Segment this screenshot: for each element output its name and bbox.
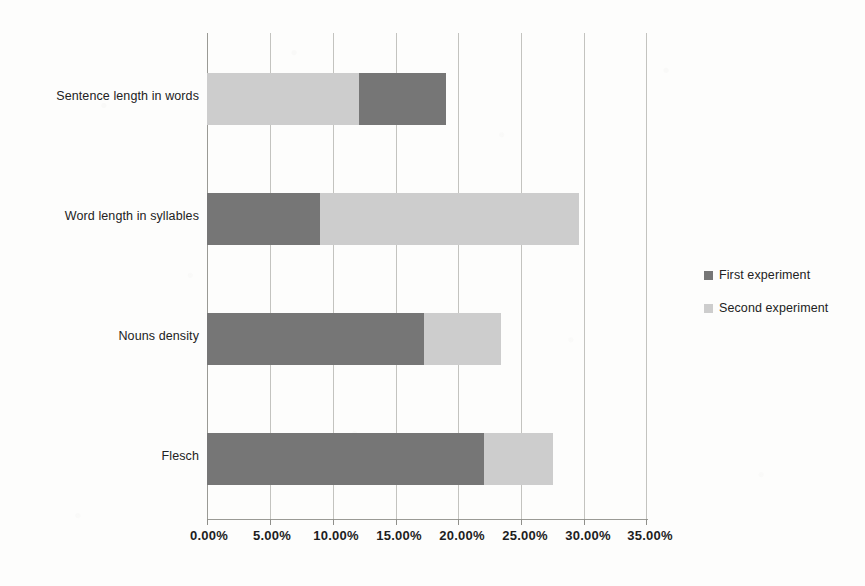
bar-row xyxy=(207,313,501,365)
y-axis-category-labels: Sentence length in words Word length in … xyxy=(0,0,199,586)
bar-segment-second-experiment xyxy=(484,433,553,485)
plot-area xyxy=(207,33,647,520)
bar-row xyxy=(207,193,579,245)
bar-segment-first-experiment xyxy=(207,193,320,245)
x-axis-line xyxy=(207,519,648,520)
x-tick-label-0: 0.00% xyxy=(190,528,228,543)
bar-segment-second-experiment xyxy=(424,313,501,365)
x-tick-20 xyxy=(458,519,459,525)
gridline-35 xyxy=(646,33,647,520)
legend-entry-first-experiment: First experiment xyxy=(704,268,854,282)
legend-label-second-experiment: Second experiment xyxy=(719,301,828,315)
x-tick-5 xyxy=(270,519,271,525)
x-tick-label-35: 35.00% xyxy=(627,528,672,543)
x-tick-label-20: 20.00% xyxy=(439,528,484,543)
category-label-sentence-length-in-words: Sentence length in words xyxy=(7,89,199,103)
x-tick-label-5: 5.00% xyxy=(253,528,291,543)
bar-segment-first-experiment xyxy=(207,433,484,485)
legend-label-first-experiment: First experiment xyxy=(719,268,810,282)
bar-row xyxy=(207,73,446,125)
bar-segment-second-experiment xyxy=(320,193,579,245)
x-tick-label-30: 30.00% xyxy=(565,528,610,543)
stacked-bar-chart: Sentence length in words Word length in … xyxy=(0,0,865,586)
x-tick-25 xyxy=(521,519,522,525)
x-tick-10 xyxy=(333,519,334,525)
x-axis-tick-labels: 0.00% 5.00% 10.00% 15.00% 20.00% 25.00% … xyxy=(0,528,865,554)
category-label-flesch: Flesch xyxy=(7,449,199,463)
bar-segment-first-experiment xyxy=(359,73,446,125)
legend-swatch-icon xyxy=(704,304,713,313)
bar-segment-first-experiment xyxy=(207,313,424,365)
x-tick-label-25: 25.00% xyxy=(502,528,547,543)
x-tick-35 xyxy=(646,519,647,525)
x-tick-label-10: 10.00% xyxy=(313,528,358,543)
bar-row xyxy=(207,433,553,485)
x-tick-15 xyxy=(396,519,397,525)
gridline-30 xyxy=(584,33,585,520)
category-label-nouns-density: Nouns density xyxy=(7,329,199,343)
bar-segment-second-experiment xyxy=(207,73,359,125)
legend-entry-second-experiment: Second experiment xyxy=(704,301,854,315)
legend-swatch-icon xyxy=(704,271,713,280)
x-tick-label-15: 15.00% xyxy=(376,528,421,543)
x-tick-0 xyxy=(207,519,208,525)
chart-legend: First experiment Second experiment xyxy=(704,268,854,334)
x-tick-30 xyxy=(584,519,585,525)
category-label-word-length-in-syllables: Word length in syllables xyxy=(7,209,199,223)
